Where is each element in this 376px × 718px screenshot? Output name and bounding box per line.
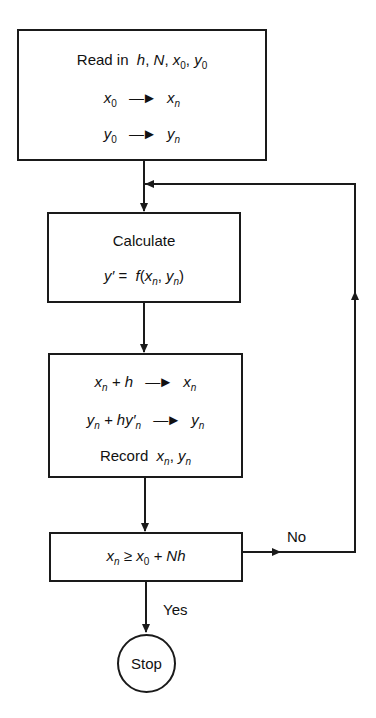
var-x: x bbox=[107, 547, 115, 564]
var-y: y bbox=[191, 411, 199, 428]
var-y: y bbox=[167, 125, 175, 142]
plus-h: + h bbox=[112, 373, 133, 390]
sub-n: n bbox=[152, 276, 158, 287]
sub-n: n bbox=[186, 456, 192, 467]
sub-n: n bbox=[164, 456, 170, 467]
calculate-box: Calculate y′ = f(xn, yn) bbox=[47, 212, 241, 303]
sub-0: 0 bbox=[111, 134, 117, 145]
var-x: x bbox=[95, 373, 103, 390]
var-x: x bbox=[183, 373, 191, 390]
derivative-line: y′ = f(xn, yn) bbox=[49, 267, 239, 284]
calculate-label: Calculate bbox=[49, 232, 239, 249]
var-y0: y bbox=[194, 51, 202, 68]
update-box: xn + h —► xn yn + hy′n —► yn Record xn, … bbox=[48, 353, 243, 478]
sub-n: n bbox=[136, 420, 142, 431]
record-label: Record bbox=[100, 447, 148, 464]
branch-yes-label: Yes bbox=[163, 601, 187, 618]
var-x: x bbox=[167, 89, 175, 106]
decision-box: xn ≥ x0 + Nh bbox=[49, 532, 243, 582]
update-x-line: xn + h —► xn bbox=[50, 373, 241, 390]
sub-n: n bbox=[174, 276, 180, 287]
var-x: x bbox=[157, 447, 165, 464]
update-y-line: yn + hy′n —► yn bbox=[50, 411, 241, 428]
geq-operator: ≥ bbox=[124, 547, 132, 564]
input-box: Read in h, N, x0, y0 x0 —► xn y0 —► yn bbox=[17, 29, 267, 161]
sub-0: 0 bbox=[202, 60, 208, 71]
plus-hy-prime: + hy′ bbox=[104, 411, 136, 428]
sub-n: n bbox=[175, 98, 181, 109]
sub-n: n bbox=[191, 382, 197, 393]
sub-n: n bbox=[94, 420, 100, 431]
stop-label: Stop bbox=[131, 655, 162, 672]
condition-line: xn ≥ x0 + Nh bbox=[51, 547, 241, 564]
assign-arrow-icon: —► bbox=[129, 125, 155, 142]
plus-Nh: + Nh bbox=[153, 547, 185, 564]
var-h: h bbox=[137, 51, 145, 68]
var-y: y bbox=[166, 267, 174, 284]
y-prime-lhs: y′ = bbox=[104, 267, 127, 284]
sub-n: n bbox=[175, 134, 181, 145]
var-y: y bbox=[178, 447, 186, 464]
sub-0: 0 bbox=[180, 60, 186, 71]
sub-0: 0 bbox=[111, 98, 117, 109]
var-N: N bbox=[154, 51, 165, 68]
assign-arrow-icon: —► bbox=[129, 89, 155, 106]
sub-n: n bbox=[199, 420, 205, 431]
sub-0: 0 bbox=[144, 556, 150, 567]
sub-n: n bbox=[114, 556, 120, 567]
branch-no-label: No bbox=[287, 528, 306, 545]
read-in-label: Read in bbox=[77, 51, 129, 68]
read-in-line: Read in h, N, x0, y0 bbox=[19, 51, 265, 68]
var-x: x bbox=[136, 547, 144, 564]
assign-arrow-icon: —► bbox=[153, 411, 179, 428]
assign-y-line: y0 —► yn bbox=[19, 125, 265, 142]
stop-terminal: Stop bbox=[117, 634, 176, 693]
assign-arrow-icon: —► bbox=[145, 373, 171, 390]
assign-x-line: x0 —► xn bbox=[19, 89, 265, 106]
record-line: Record xn, yn bbox=[50, 447, 241, 464]
sub-n: n bbox=[102, 382, 108, 393]
fn-f: f bbox=[135, 267, 139, 284]
